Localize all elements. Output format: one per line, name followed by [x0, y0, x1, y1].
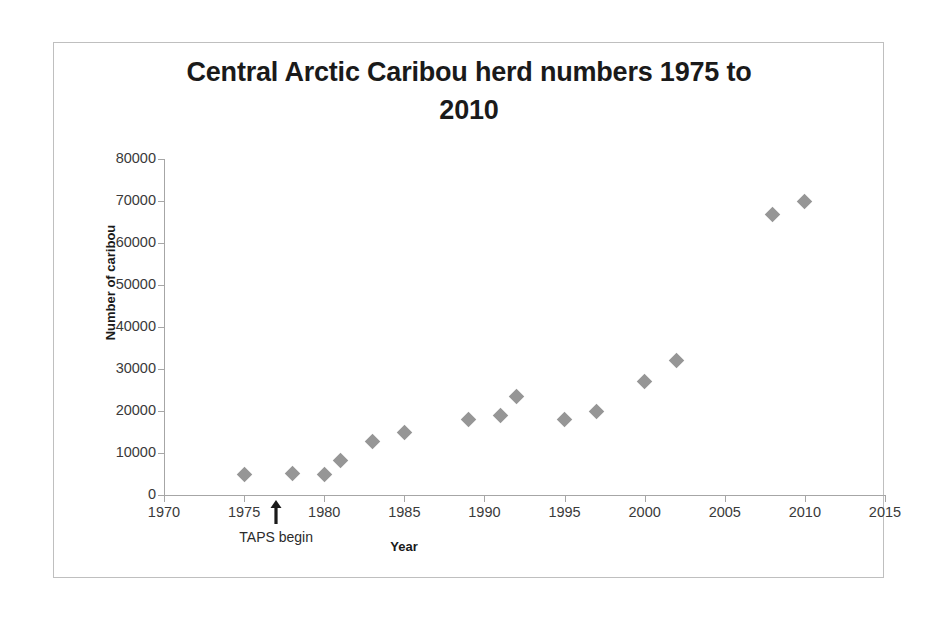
x-axis-tick-label: 2010	[775, 505, 835, 521]
x-axis-tick-label: 1990	[454, 505, 514, 521]
x-axis-tick-label: 1970	[134, 505, 194, 521]
taps-begin-label: TAPS begin	[196, 529, 356, 545]
y-axis-tick-label: 80000	[86, 151, 156, 166]
x-axis-tick	[244, 496, 245, 502]
x-axis-tick-label: 2005	[695, 505, 755, 521]
x-axis-tick	[565, 496, 566, 502]
chart-page: Central Arctic Caribou herd numbers 1975…	[0, 0, 930, 618]
chart-frame: Central Arctic Caribou herd numbers 1975…	[53, 42, 884, 578]
y-axis-tick-label: 20000	[86, 403, 156, 418]
x-axis-tick	[725, 496, 726, 502]
x-axis-tick-label: 2015	[855, 505, 915, 521]
x-axis-tick	[324, 496, 325, 502]
x-axis-tick-label: 1980	[294, 505, 354, 521]
taps-begin-arrow-icon	[269, 499, 283, 525]
plot-area	[164, 159, 885, 495]
x-axis-tick	[404, 496, 405, 502]
x-axis-tick	[484, 496, 485, 502]
x-axis-tick-label: 1985	[374, 505, 434, 521]
y-axis-tick-label: 50000	[86, 277, 156, 292]
y-axis-tick-label: 40000	[86, 319, 156, 334]
y-axis-tick-label: 70000	[86, 193, 156, 208]
y-axis-tick-label: 30000	[86, 361, 156, 376]
y-axis-tick-label: 0	[86, 487, 156, 502]
x-axis-tick	[805, 496, 806, 502]
x-axis-tick-label: 2000	[615, 505, 675, 521]
y-axis-tick-label: 10000	[86, 445, 156, 460]
chart-title: Central Arctic Caribou herd numbers 1975…	[114, 53, 824, 129]
chart-title-line-1: Central Arctic Caribou herd numbers 1975…	[186, 57, 751, 87]
y-axis-title: Number of caribou	[103, 183, 118, 383]
y-axis-tick-label: 60000	[86, 235, 156, 250]
x-axis-tick	[885, 496, 886, 502]
x-axis-tick-label: 1995	[535, 505, 595, 521]
x-axis-tick	[164, 496, 165, 502]
x-axis-line	[164, 495, 886, 496]
chart-title-line-2: 2010	[439, 95, 498, 125]
x-axis-tick	[645, 496, 646, 502]
x-axis-tick-label: 1975	[214, 505, 274, 521]
